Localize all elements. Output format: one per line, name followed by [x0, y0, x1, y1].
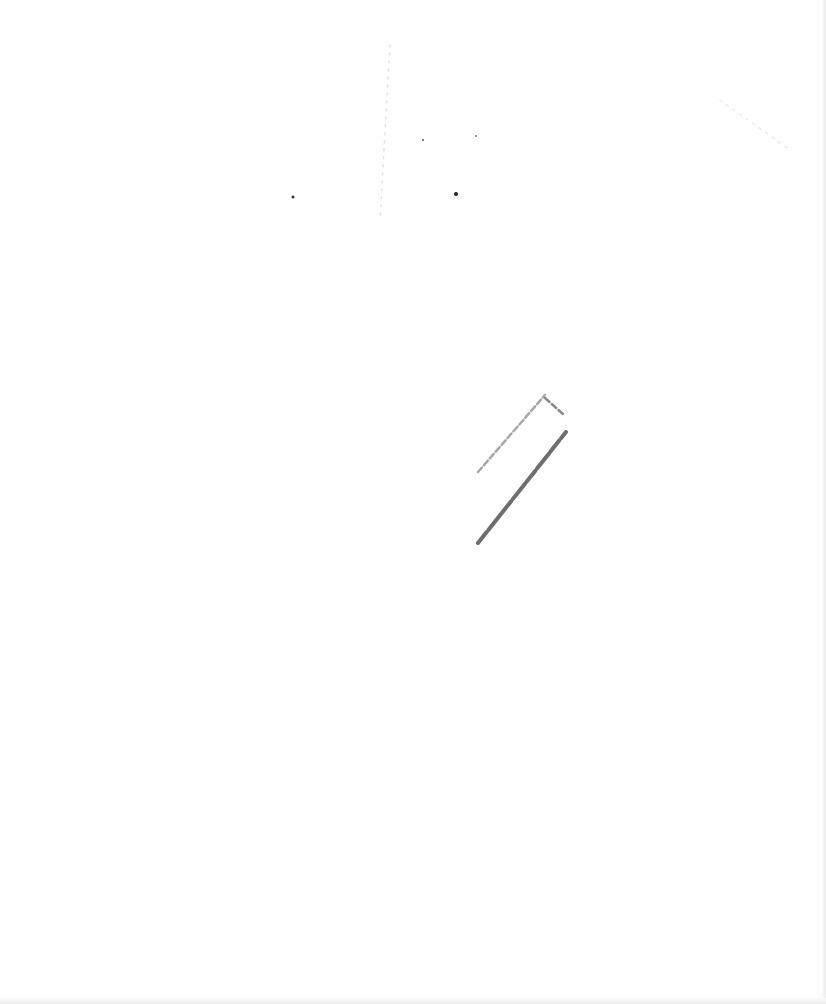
- speck-dot: [475, 135, 477, 137]
- page-edge-right: [822, 0, 826, 1004]
- speck-dot: [292, 196, 295, 199]
- faint-speckle-diagonal: [720, 100, 790, 150]
- faint-dotted-line: [380, 45, 390, 220]
- speck-dot: [454, 192, 458, 196]
- page-edge-bottom: [0, 998, 826, 1004]
- pencil-tick: [545, 398, 563, 414]
- pencil-stroke-light: [478, 395, 545, 472]
- speck-dot: [422, 139, 424, 141]
- pencil-stroke-dark: [478, 432, 566, 543]
- pencil-marks: [0, 0, 826, 1004]
- blank-page: [0, 0, 826, 1004]
